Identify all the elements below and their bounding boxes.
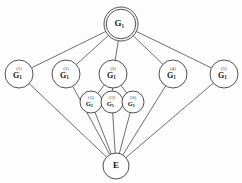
node-g1-sup13[interactable]: (13)G1 [101,91,123,113]
edge-sup3-sup10 [121,85,126,93]
edge-sup13-e [113,113,116,153]
node-g1-sup10[interactable]: (10)G1 [122,91,144,113]
node-g1-sup5-subscript: 1 [224,75,227,81]
edge-root-sup3 [115,41,118,60]
node-e-identity[interactable]: E [103,153,129,179]
node-g1-sup11-subscript: 1 [91,103,93,108]
nodes-layer: G1(1)G1(2)G1(3)G1(4)G1(5)G1(11)G1(13)G1(… [5,7,238,179]
node-g1-sup4[interactable]: (4)G1 [159,60,187,88]
node-g1-root[interactable]: G1 [104,7,138,41]
node-g1-sup11[interactable]: (11)G1 [80,91,102,113]
edge-sup3-sup11 [98,85,105,93]
node-g1-sup10-subscript: 1 [133,103,135,108]
subgroup-lattice-diagram: G1(1)G1(2)G1(3)G1(4)G1(5)G1(11)G1(13)G1(… [0,0,242,183]
node-g1-sup3-subscript: 1 [113,75,116,81]
node-g1-sup5[interactable]: (5)G1 [210,60,238,88]
edge-sup10-e [119,113,130,154]
node-g1-sup2[interactable]: (2)G1 [52,60,80,88]
node-g1-sup10-circle [122,91,144,113]
node-g1-sup3[interactable]: (3)G1 [99,60,127,88]
node-g1-sup11-circle [80,91,102,113]
node-g1-sup1-subscript: 1 [19,75,22,81]
node-g1-root-subscript: 1 [122,23,125,29]
edges-layer [29,31,213,157]
edge-root-sup4 [133,36,163,65]
graph-canvas: G1(1)G1(2)G1(3)G1(4)G1(5)G1(11)G1(13)G1(… [0,0,242,183]
node-g1-sup1[interactable]: (1)G1 [5,60,33,88]
edge-root-sup2 [76,35,108,64]
node-g1-sup4-subscript: 1 [173,75,176,81]
edge-sup11-e [95,112,111,154]
node-g1-sup13-circle [101,91,123,113]
node-g1-sup13-subscript: 1 [112,103,114,108]
node-e-identity-label: E [113,160,119,170]
node-g1-sup2-subscript: 1 [66,75,69,81]
